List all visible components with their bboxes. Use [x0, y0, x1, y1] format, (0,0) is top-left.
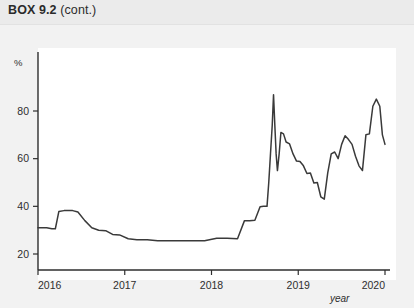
box-header-band: BOX 9.2 (cont.) [0, 0, 414, 25]
box-label: BOX 9.2 (cont.) [8, 3, 96, 17]
y-axis-tick-label: 20 [17, 248, 29, 260]
x-axis-tick-label: 2016 [38, 279, 62, 291]
x-axis-tick-label: 2017 [113, 279, 137, 291]
y-axis-tick-label: 80 [17, 105, 29, 117]
box-number: BOX 9.2 [8, 3, 57, 17]
x-axis-tick-label: 2018 [200, 279, 224, 291]
y-axis-unit-label: % [14, 57, 23, 68]
y-axis-tick-label: 40 [17, 200, 29, 212]
chart-line-series [38, 95, 385, 241]
box-continuation-label: (cont.) [60, 3, 96, 17]
page-root: BOX 9.2 (cont.) 20406080 201620172018201… [0, 0, 414, 308]
chart-figure: 20406080 20162017201820192020 % year [0, 24, 414, 308]
x-axis-name-label: year [329, 293, 350, 304]
y-axis-ticks: 20406080 [17, 105, 38, 260]
x-axis-ticks: 20162017201820192020 [38, 270, 385, 291]
y-axis-tick-label: 60 [17, 152, 29, 164]
x-axis-tick-label: 2020 [362, 279, 386, 291]
x-axis-tick-label: 2019 [287, 279, 311, 291]
chart-svg: 20406080 20162017201820192020 % year [0, 24, 414, 308]
